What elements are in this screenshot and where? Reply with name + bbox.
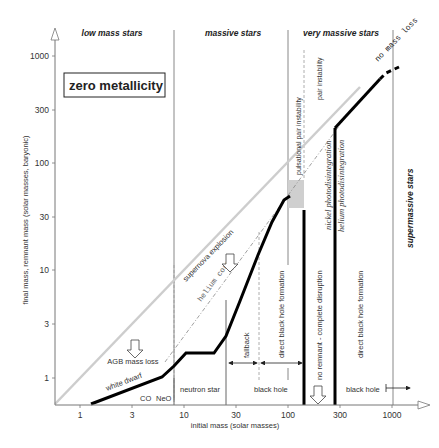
- x-tick-1: 1: [78, 410, 83, 420]
- no-remnant-arrow-icon: [310, 386, 326, 404]
- y-axis-arrow-icon: [51, 28, 59, 40]
- supermassive-extension: [380, 67, 399, 79]
- no-remnant-label: no remnant - complete disruption: [315, 270, 324, 380]
- pulsational-pair-instability-label: pulsational pair instability: [295, 97, 303, 175]
- white-dwarf-label: white dwarf: [104, 371, 144, 394]
- pulsational-band: [288, 180, 304, 208]
- black-hole-label-2: black hole: [346, 385, 380, 394]
- region-massive: massive stars: [205, 28, 262, 38]
- x-axis-label: initial mass (solar masses): [191, 421, 280, 430]
- y-tick-300: 300: [35, 105, 49, 115]
- fallback-label: fallback: [242, 332, 251, 358]
- region-low-mass: low mass stars: [82, 28, 143, 38]
- neutron-star-label: neutron star: [180, 385, 221, 394]
- agb-mass-loss-label: AGB mass loss: [107, 357, 159, 366]
- x-tick-1000: 1000: [383, 410, 402, 420]
- pair-instability-label: pair instability: [316, 57, 324, 100]
- x-tick-30: 30: [231, 410, 241, 420]
- neo-label: NeO: [156, 394, 172, 403]
- y-axis-label: final mass, remnant mass (solar masses, …: [21, 135, 30, 305]
- remnant-curve: [91, 196, 290, 404]
- diagram: 1000 300 100 30 10 3 1 1 3 10 30 100 300…: [0, 0, 439, 448]
- x-tick-10: 10: [179, 410, 189, 420]
- region-very-massive: very massive stars: [303, 28, 379, 38]
- direct-bh-formation-label-2: direct black hole formation: [356, 270, 365, 358]
- co-label: CO: [140, 394, 151, 403]
- x-tick-3: 3: [130, 410, 135, 420]
- y-tick-3: 3: [44, 319, 49, 329]
- no-mass-loss-label: no mass loss: [373, 16, 420, 64]
- supermassive-stars-label: supermassive stars: [405, 168, 415, 248]
- x-axis-arrow-icon: [418, 401, 430, 409]
- nickel-photodisintegration-label: nickel photodisintegration: [323, 141, 333, 230]
- y-tick-30: 30: [40, 212, 50, 222]
- helium-photodisintegration-label: helium photodisintegration: [336, 140, 346, 232]
- direct-bh-formation-label-1: direct black hole formation: [277, 270, 286, 358]
- agb-arrow-icon: [127, 340, 143, 358]
- remnant-mass-diagram: 1000 300 100 30 10 3 1 1 3 10 30 100 300…: [0, 0, 439, 448]
- y-tick-100: 100: [35, 158, 49, 168]
- y-tick-10: 10: [40, 265, 50, 275]
- y-tick-1: 1: [44, 373, 49, 383]
- black-hole-label-1: black hole: [254, 385, 288, 394]
- zero-metallicity-label: zero metallicity: [69, 78, 164, 93]
- x-tick-300: 300: [333, 410, 347, 420]
- x-tick-100: 100: [281, 410, 295, 420]
- y-tick-1000: 1000: [30, 51, 49, 61]
- very-massive-branch: [335, 79, 380, 128]
